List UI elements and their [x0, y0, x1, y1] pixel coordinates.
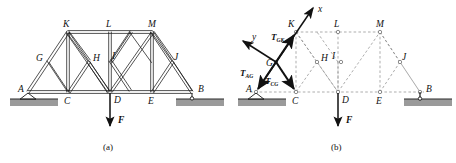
joint-label-E-b: E — [375, 96, 382, 106]
joint-label-E: E — [147, 96, 154, 106]
joint-label-B-b: B — [426, 84, 432, 94]
joint-labels-a: A C D E B G H I J K L M — [17, 19, 204, 106]
joint-label-G-b: G — [266, 58, 273, 68]
force-label-ag: TAG — [240, 68, 253, 79]
panel-caption-a: (a) — [103, 142, 113, 152]
joint-label-C: C — [64, 96, 71, 106]
joint-label-D: D — [113, 95, 121, 105]
joint-label-D-b: D — [341, 95, 349, 105]
joint-dot-M — [378, 30, 381, 33]
joint-dot-H — [315, 60, 318, 63]
truss-figure: A C D E B G H I J K L M F (a) — [0, 0, 456, 163]
ground-left-a — [10, 99, 58, 106]
joint-label-I-b: I — [331, 51, 336, 61]
joint-dot-I — [339, 60, 342, 63]
joint-dot-C — [294, 90, 297, 93]
ground-left-b — [238, 99, 286, 106]
figure-canvas: A C D E B G H I J K L M F (a) — [0, 0, 456, 163]
panel-b: x y TGK TAG TCG F — [238, 4, 452, 152]
joint-dot-L — [336, 30, 339, 33]
joint-label-K: K — [62, 19, 70, 29]
force-label-gk: TGK — [271, 32, 286, 43]
joint-label-H: H — [92, 53, 101, 63]
joint-label-M-b: M — [375, 19, 385, 29]
load-label-f-b: F — [345, 115, 353, 125]
joint-label-L-b: L — [333, 19, 339, 29]
joint-label-A-b: A — [245, 84, 252, 94]
roller-support-a — [190, 93, 193, 100]
joint-label-H-b: H — [320, 53, 329, 63]
joint-label-K-b: K — [287, 19, 295, 29]
joint-dot-E — [378, 90, 381, 93]
y-axis-label: y — [251, 32, 257, 42]
load-label-f-a: F — [117, 115, 125, 125]
x-axis-label: x — [317, 4, 323, 14]
joint-label-J: J — [174, 52, 179, 62]
joint-label-G: G — [36, 53, 43, 63]
joint-label-L: L — [105, 19, 111, 29]
truss-members-a — [27, 31, 193, 94]
panel-caption-b: (b) — [331, 142, 342, 152]
ground-right-b — [404, 99, 452, 106]
joint-label-B: B — [198, 84, 204, 94]
force-label-cg: TCG — [265, 76, 278, 87]
joint-label-C-b: C — [292, 96, 299, 106]
joint-label-J-b: J — [402, 52, 407, 62]
joint-label-A: A — [17, 84, 24, 94]
force-vector-cg — [276, 62, 294, 89]
ground-right-a — [176, 99, 224, 106]
joint-label-M: M — [147, 19, 157, 29]
panel-a: A C D E B G H I J K L M F (a) — [10, 19, 224, 152]
